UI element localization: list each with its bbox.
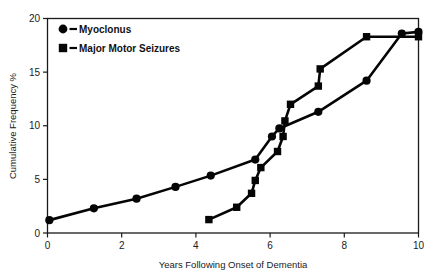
x-axis-ticks xyxy=(48,233,419,238)
y-axis-ticks xyxy=(43,19,48,234)
data-point-marker xyxy=(257,164,264,171)
y-tick-label: 15 xyxy=(29,67,41,78)
y-axis-title: Cumulative Frequency % xyxy=(7,72,18,179)
series-path xyxy=(49,32,418,220)
y-tick-label: 0 xyxy=(34,228,40,239)
chart-legend: MyoclonusMajor Motor Seizures xyxy=(59,24,181,54)
data-point-marker xyxy=(248,190,255,197)
series-myoclonus xyxy=(45,28,422,224)
data-point-marker xyxy=(314,108,322,116)
series-major-motor-seizures xyxy=(205,33,422,223)
data-point-marker xyxy=(252,177,259,184)
x-tick-label: 0 xyxy=(45,240,51,251)
data-point-marker xyxy=(362,77,370,85)
data-point-marker xyxy=(363,33,370,40)
x-axis-title: Years Following Onset of Dementia xyxy=(159,259,308,270)
data-point-marker xyxy=(287,101,294,108)
data-point-marker xyxy=(132,195,140,203)
data-point-marker xyxy=(315,82,322,89)
chart-canvas: 05101520 0246810 Cumulative Frequency % … xyxy=(0,0,437,279)
data-series-layer xyxy=(45,28,422,224)
legend-item-myoclonus: Myoclonus xyxy=(59,24,132,35)
legend-item-major-motor-seizures: Major Motor Seizures xyxy=(59,43,181,54)
data-point-marker xyxy=(205,216,212,223)
data-point-marker xyxy=(45,216,53,224)
data-point-marker xyxy=(281,117,288,124)
data-point-marker xyxy=(171,183,179,191)
data-point-marker xyxy=(268,132,276,140)
series-path xyxy=(209,37,419,220)
data-point-marker xyxy=(274,148,281,155)
legend-label: Myoclonus xyxy=(79,24,132,35)
x-tick-label: 8 xyxy=(342,240,348,251)
x-tick-label: 4 xyxy=(193,240,199,251)
y-tick-label: 20 xyxy=(29,13,41,24)
y-tick-label: 10 xyxy=(29,120,41,131)
legend-circle-icon xyxy=(59,25,68,34)
data-point-marker xyxy=(415,33,422,40)
legend-square-icon xyxy=(59,44,67,52)
x-tick-label: 6 xyxy=(267,240,273,251)
y-tick-label: 5 xyxy=(34,174,40,185)
data-point-marker xyxy=(90,204,98,212)
data-point-marker xyxy=(233,204,240,211)
legend-label: Major Motor Seizures xyxy=(79,43,181,54)
y-axis-tick-labels: 05101520 xyxy=(29,13,41,239)
data-point-marker xyxy=(279,133,286,140)
data-point-marker xyxy=(207,172,215,180)
x-tick-label: 2 xyxy=(119,240,125,251)
data-point-marker xyxy=(316,65,323,72)
data-point-marker xyxy=(251,155,259,163)
x-axis-tick-labels: 0246810 xyxy=(45,240,425,251)
x-tick-label: 10 xyxy=(413,240,425,251)
data-point-marker xyxy=(275,124,283,132)
chart-figure: 05101520 0246810 Cumulative Frequency % … xyxy=(0,0,437,279)
